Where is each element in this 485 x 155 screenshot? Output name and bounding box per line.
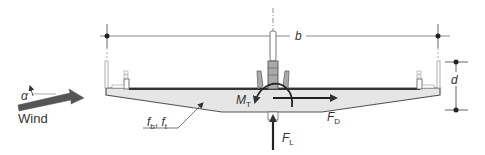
wind-label: Wind <box>18 111 48 126</box>
moment-symbol: M <box>236 93 246 107</box>
width-label: b <box>295 29 302 43</box>
wind-arrow: α Wind <box>18 86 84 126</box>
deck-section <box>106 88 440 112</box>
lift-subscript: L <box>289 138 294 147</box>
drag-subscript: D <box>334 117 340 126</box>
right-railing <box>417 61 440 89</box>
moment-subscript: T <box>246 100 251 109</box>
svg-text:FL: FL <box>282 131 294 147</box>
lift-force: FL <box>273 116 294 150</box>
left-railing <box>105 61 129 89</box>
central-mast <box>257 31 289 89</box>
bridge-deck-diagram: b <box>0 0 485 155</box>
wind-angle-label: α <box>21 89 29 103</box>
depth-dimension: d <box>445 60 468 113</box>
freq-t-subscript: t <box>165 122 168 131</box>
svg-text:FD: FD <box>327 110 340 126</box>
depth-label: d <box>451 73 458 87</box>
svg-text:fb, ft: fb, ft <box>147 115 168 131</box>
